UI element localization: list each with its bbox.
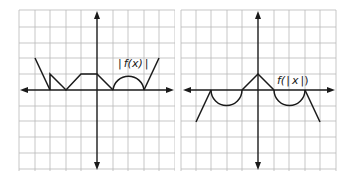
graph-label-left: |f(x)| [118,57,148,70]
x-axis-arrow-left-icon [183,87,191,93]
graph-f-of-abs-x: f(|x|) [175,0,350,181]
axes [20,11,174,170]
graph-abs-f-of-x: |f(x)| [0,0,175,181]
x-axis-arrow-left-icon [20,87,28,93]
x-axis-arrow-right-icon [327,87,335,93]
axes [183,11,335,170]
graph-canvas-left: |f(x)| [0,0,175,181]
y-axis-arrow-up-icon [255,11,261,19]
y-axis-arrow-up-icon [94,11,100,19]
graph-label-right: f(|x|) [277,74,308,87]
graph-canvas-right: f(|x|) [175,0,350,181]
x-axis-arrow-right-icon [166,87,174,93]
